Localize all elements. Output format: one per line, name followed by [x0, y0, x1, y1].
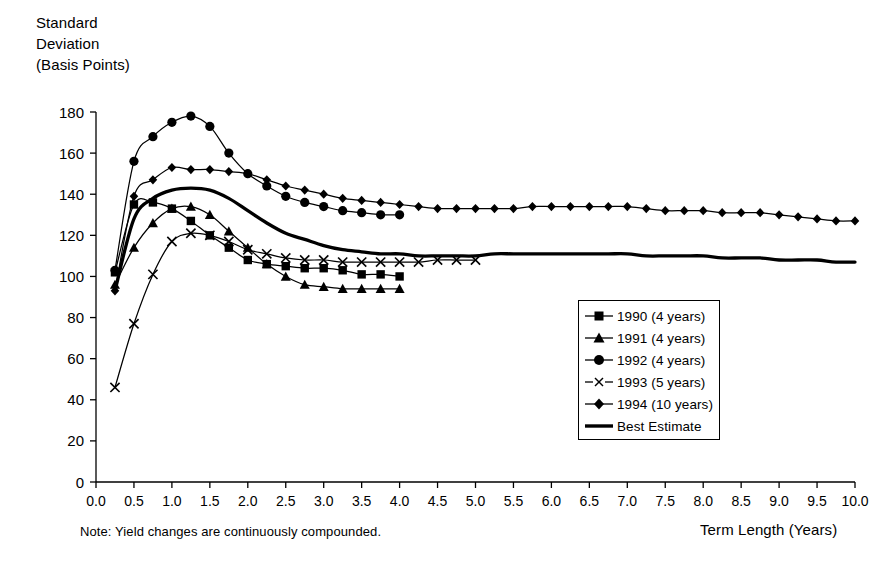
legend-item-1993: 1993 (5 years): [579, 371, 719, 393]
legend-marker-diamond: [584, 396, 614, 412]
data-point-diamond: [471, 204, 480, 213]
x-tick-label: 8.0: [693, 493, 713, 509]
marker-diamond: [851, 216, 860, 225]
legend-item-1994: 1994 (10 years): [579, 393, 719, 415]
data-point-circle: [205, 122, 214, 131]
x-tick-label: 7.0: [618, 493, 638, 509]
legend-label-1991: 1991 (4 years): [617, 331, 705, 346]
data-point-diamond: [149, 175, 158, 184]
marker-triangle: [300, 280, 310, 289]
marker-diamond: [642, 204, 651, 213]
data-point-square: [357, 270, 365, 278]
data-point-circle: [148, 132, 157, 141]
marker-triangle: [129, 243, 139, 252]
data-point-circle: [376, 210, 385, 219]
marker-diamond: [149, 175, 158, 184]
marker-diamond: [471, 204, 480, 213]
data-point-diamond: [623, 202, 632, 211]
data-point-diamond: [756, 208, 765, 217]
marker-circle: [300, 198, 309, 207]
data-point-square: [338, 266, 346, 274]
data-point-diamond: [718, 208, 727, 217]
legend-label-1993: 1993 (5 years): [617, 375, 705, 390]
series-line: [115, 116, 400, 270]
marker-circle: [148, 132, 157, 141]
x-tick-label: 0.5: [124, 493, 144, 509]
data-point-diamond: [547, 202, 556, 211]
marker-diamond: [509, 204, 518, 213]
x-tick-label: 5.5: [504, 493, 524, 509]
data-point-circle: [224, 149, 233, 158]
data-point-circle: [319, 202, 328, 211]
chart-legend: 1990 (4 years) 1991 (4 years) 1992 (4 ye…: [578, 300, 720, 440]
x-tick-label: 1.5: [200, 493, 220, 509]
marker-diamond: [395, 200, 404, 209]
plot-area: 0204060801001201401601800.00.51.01.52.02…: [0, 0, 882, 572]
data-point-diamond: [168, 163, 177, 172]
x-tick-label: 6.5: [580, 493, 600, 509]
marker-diamond: [623, 202, 632, 211]
y-tick-label: 20: [67, 432, 84, 449]
marker-square: [187, 217, 195, 225]
marker-circle: [376, 210, 385, 219]
legend-marker-line: [584, 418, 614, 434]
y-tick-label: 160: [59, 145, 84, 162]
marker-triangle: [205, 210, 215, 219]
marker-diamond: [737, 208, 746, 217]
marker-diamond: [300, 186, 309, 195]
data-point-circle: [338, 206, 347, 215]
data-point-diamond: [319, 190, 328, 199]
legend-marker-triangle: [584, 330, 614, 346]
data-point-diamond: [661, 206, 670, 215]
data-point-triangle: [300, 280, 310, 289]
marker-circle: [167, 118, 176, 127]
marker-diamond: [699, 206, 708, 215]
marker-diamond: [225, 167, 234, 176]
marker-square: [376, 270, 384, 278]
marker-triangle: [281, 271, 291, 280]
y-tick-label: 0: [76, 474, 84, 491]
x-tick-label: 2.0: [238, 493, 258, 509]
data-point-diamond: [376, 198, 385, 207]
x-tick-label: 1.0: [162, 493, 182, 509]
chart-root: Standard Deviation (Basis Points) 020406…: [0, 0, 882, 572]
data-point-diamond: [699, 206, 708, 215]
marker-diamond: [168, 163, 177, 172]
data-point-square: [244, 256, 252, 264]
data-point-diamond: [604, 202, 613, 211]
data-point-x: [262, 249, 271, 258]
marker-diamond: [452, 204, 461, 213]
x-tick-label: 3.0: [314, 493, 334, 509]
marker-diamond: [376, 198, 385, 207]
data-point-diamond: [300, 186, 309, 195]
data-point-diamond: [585, 202, 594, 211]
y-tick-label: 80: [67, 309, 84, 326]
legend-marker-x: [584, 374, 614, 390]
data-point-diamond: [832, 216, 841, 225]
marker-diamond: [775, 210, 784, 219]
y-tick-label: 60: [67, 350, 84, 367]
data-point-diamond: [395, 200, 404, 209]
marker-diamond: [319, 190, 328, 199]
x-tick-label: 6.0: [542, 493, 562, 509]
data-point-square: [282, 262, 290, 270]
marker-square: [338, 266, 346, 274]
x-axis-title: Term Length (Years): [700, 521, 837, 538]
data-point-diamond: [130, 192, 139, 201]
marker-diamond: [794, 212, 803, 221]
marker-diamond: [680, 206, 689, 215]
data-point-circle: [129, 157, 138, 166]
marker-diamond: [718, 208, 727, 217]
data-point-square: [187, 217, 195, 225]
data-point-diamond: [187, 165, 196, 174]
data-point-diamond: [338, 194, 347, 203]
x-tick-label: 8.5: [731, 493, 751, 509]
data-point-x: [148, 270, 157, 279]
marker-circle: [129, 157, 138, 166]
series-1993-5-years: [110, 229, 480, 392]
data-point-diamond: [528, 202, 537, 211]
x-tick-label: 10.0: [841, 493, 868, 509]
x-tick-label: 4.5: [428, 493, 448, 509]
y-tick-label: 100: [59, 268, 84, 285]
marker-diamond: [832, 216, 841, 225]
